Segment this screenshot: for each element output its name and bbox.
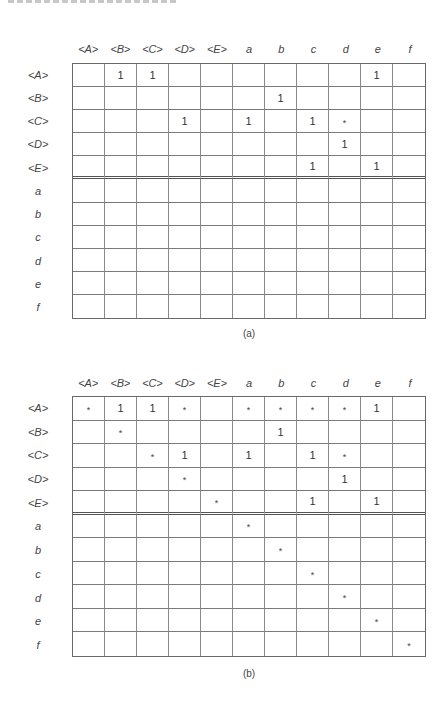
- matrix-cell-empty: [393, 468, 425, 492]
- matrix-cell-empty: [73, 515, 105, 539]
- matrix-cell-empty: [73, 87, 105, 110]
- matrix-cell-empty: [329, 249, 361, 272]
- matrix-cell-one: 1: [233, 110, 265, 133]
- matrix-cell-empty: [105, 249, 137, 272]
- matrix-cell-empty: [201, 179, 233, 202]
- matrix-cell-empty: [201, 538, 233, 562]
- matrix-cell-empty: [105, 179, 137, 202]
- matrix-cell-empty: [201, 468, 233, 492]
- row-label: c: [10, 226, 66, 249]
- matrix-cell-empty: [201, 249, 233, 272]
- matrix-cell-empty: [361, 295, 393, 318]
- matrix-cell-empty: [105, 538, 137, 562]
- matrix-cell-empty: [265, 444, 297, 468]
- row-label: <B>: [10, 420, 66, 444]
- matrix-cell-empty: [265, 491, 297, 515]
- matrix-cell-empty: [137, 226, 169, 249]
- matrix-cell-empty: [169, 562, 201, 586]
- matrix-cell-empty: [137, 468, 169, 492]
- column-header: c: [297, 375, 329, 391]
- matrix-cell-empty: [105, 133, 137, 156]
- column-headers: <A><B><C><D><E>abcdef: [72, 41, 426, 57]
- matrix-cell-empty: [297, 538, 329, 562]
- matrix-cell-empty: [73, 295, 105, 318]
- matrix-cell-empty: [137, 272, 169, 295]
- matrix-cell-empty: [201, 585, 233, 609]
- matrix-cell-empty: [297, 585, 329, 609]
- matrix-cell-empty: [233, 632, 265, 656]
- column-header: d: [330, 375, 362, 391]
- matrix-cell-empty: [361, 538, 393, 562]
- matrix-cell-empty: [137, 249, 169, 272]
- column-header: <C>: [136, 41, 168, 57]
- matrix-cell-one: 1: [297, 491, 329, 515]
- row-label: <E>: [10, 491, 66, 515]
- matrix-cell-empty: [137, 491, 169, 515]
- matrix-cell-empty: [73, 491, 105, 515]
- matrix-cell-star: *: [201, 491, 233, 515]
- matrix-cell-empty: [361, 585, 393, 609]
- matrix-cell-empty: [105, 295, 137, 318]
- matrix-cell-empty: [233, 272, 265, 295]
- row-label: <B>: [10, 86, 66, 109]
- matrix-cell-empty: [73, 156, 105, 179]
- column-header: e: [362, 375, 394, 391]
- row-labels: <A><B><C><D><E>abcdef: [10, 63, 66, 319]
- matrix-cell-star: *: [233, 515, 265, 539]
- row-label: e: [10, 272, 66, 295]
- matrix-cell-empty: [361, 179, 393, 202]
- matrix-cell-empty: [169, 203, 201, 226]
- column-header: b: [265, 375, 297, 391]
- matrix-cell-empty: [233, 249, 265, 272]
- column-header: <E>: [201, 375, 233, 391]
- matrix-cell-empty: [393, 226, 425, 249]
- matrix-cell-empty: [361, 515, 393, 539]
- matrix-cell-empty: [137, 179, 169, 202]
- matrix-cell-empty: [361, 468, 393, 492]
- matrix-cell-empty: [361, 226, 393, 249]
- matrix-cell-empty: [137, 203, 169, 226]
- matrix-cell-empty: [233, 179, 265, 202]
- matrix-cell-empty: [73, 272, 105, 295]
- matrix-cell-empty: [393, 562, 425, 586]
- matrix-cell-empty: [105, 585, 137, 609]
- matrix-cell-star: *: [265, 538, 297, 562]
- matrix-cell-empty: [169, 295, 201, 318]
- matrix-cell-empty: [265, 110, 297, 133]
- matrix-cell-empty: [297, 421, 329, 445]
- column-header: <E>: [201, 41, 233, 57]
- matrix-cell-empty: [169, 515, 201, 539]
- matrix-cell-empty: [393, 64, 425, 87]
- matrix-cell-one: 1: [297, 444, 329, 468]
- matrix-cell-empty: [137, 538, 169, 562]
- matrix-cell-empty: [265, 203, 297, 226]
- matrix-cell-empty: [73, 179, 105, 202]
- matrix-cell-empty: [265, 226, 297, 249]
- row-label: a: [10, 179, 66, 202]
- matrix-cell-one: 1: [361, 156, 393, 179]
- matrix-cell-empty: [329, 632, 361, 656]
- matrix-cell-empty: [105, 491, 137, 515]
- matrix-cell-empty: [105, 156, 137, 179]
- matrix-cell-empty: [393, 295, 425, 318]
- matrix-cell-empty: [201, 632, 233, 656]
- matrix-cell-empty: [393, 87, 425, 110]
- matrix-cell-empty: [137, 110, 169, 133]
- matrix-cell-empty: [73, 609, 105, 633]
- matrix-cell-empty: [73, 421, 105, 445]
- column-header: a: [233, 375, 265, 391]
- matrix-cell-one: 1: [361, 64, 393, 87]
- matrix-cell-empty: [73, 562, 105, 586]
- matrix-cell-star: *: [265, 397, 297, 421]
- matrix-cell-empty: [329, 538, 361, 562]
- matrix-cell-empty: [265, 133, 297, 156]
- matrix-cell-empty: [393, 133, 425, 156]
- matrix-cell-one: 1: [297, 110, 329, 133]
- row-label: <A>: [10, 396, 66, 420]
- matrix-cell-one: 1: [297, 156, 329, 179]
- matrix-cell-empty: [329, 179, 361, 202]
- matrix-cell-empty: [169, 585, 201, 609]
- matrix-cell-empty: [297, 272, 329, 295]
- matrix-cell-empty: [73, 468, 105, 492]
- matrix-cell-empty: [105, 272, 137, 295]
